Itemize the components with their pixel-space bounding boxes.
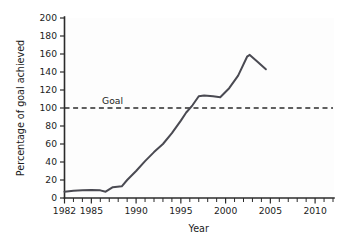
goal-reference-label: Goal [102,95,123,106]
x-tick-label: 1995 [169,205,193,216]
chart-figure: 020406080100120140160180200 198219851990… [0,0,344,237]
y-tick-label: 40 [45,156,57,167]
x-axis-title: Year [188,223,209,234]
y-axis-title: Percentage of goal achieved [15,40,26,176]
y-tick-label: 140 [39,66,57,77]
x-axis-minor-ticks [65,198,334,204]
chart-canvas: 020406080100120140160180200 198219851990… [0,0,344,237]
x-tick-label: 1990 [124,205,148,216]
y-tick-label: 180 [39,30,57,41]
x-tick-label: 1985 [80,205,104,216]
x-tick-label: 2010 [303,205,327,216]
y-tick-label: 100 [39,102,57,113]
plot-background [64,18,334,198]
y-tick-label: 20 [45,174,57,185]
y-tick-label: 120 [39,84,57,95]
x-tick-label: 2000 [214,205,238,216]
x-axis-tick-labels: 1982198519901995200020052010 [53,205,327,216]
y-tick-label: 80 [45,120,57,131]
y-tick-label: 60 [45,138,57,149]
x-tick-label: 1982 [53,205,76,216]
y-tick-label: 160 [39,48,57,59]
y-axis-tick-labels: 020406080100120140160180200 [39,12,57,203]
y-tick-label: 0 [51,192,57,203]
x-tick-label: 2005 [259,205,283,216]
y-tick-label: 200 [39,12,57,23]
